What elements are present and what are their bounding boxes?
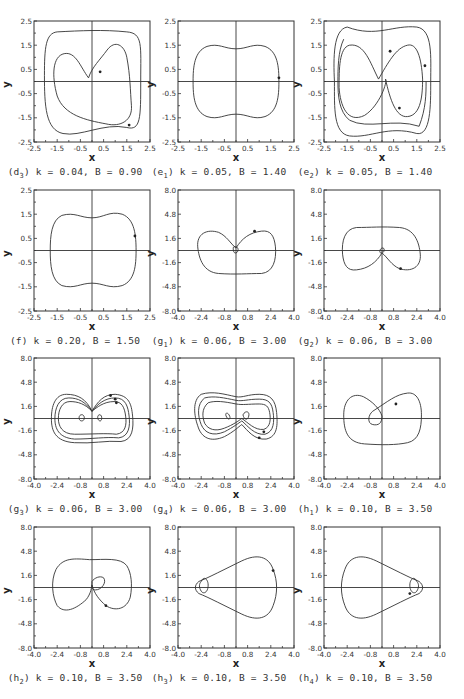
direction-marker <box>262 430 265 433</box>
y-tick-label: -1.6 <box>18 426 32 435</box>
x-axis-label: x <box>89 658 96 669</box>
x-axis-label: x <box>89 321 96 332</box>
y-tick-label: 4.8 <box>165 547 177 556</box>
y-tick-label: 2.5 <box>21 186 32 195</box>
panel-caption: (h3) k = 0.10, B = 3.50 <box>144 672 294 686</box>
direction-marker <box>128 124 131 127</box>
y-tick-label: 1.5 <box>311 41 322 50</box>
x-tick-label: 0.8 <box>98 481 110 490</box>
plot-panel-e1: -2.5-1.5-0.50.51.52.52.51.50.5-0.5-1.5-2… <box>144 0 294 168</box>
y-tick-label: 1.5 <box>21 210 32 219</box>
y-tick-label: -8.0 <box>162 307 176 316</box>
y-tick-label: -1.6 <box>162 426 176 435</box>
y-tick-label: 1.6 <box>165 402 177 411</box>
y-tick-label: -8.0 <box>162 644 176 653</box>
y-tick-label: -8.0 <box>18 475 32 484</box>
direction-marker <box>134 235 137 238</box>
y-tick-label: 1.6 <box>311 571 323 580</box>
y-tick-label: 2.5 <box>21 17 32 26</box>
direction-marker <box>399 267 402 270</box>
x-axis-label: x <box>379 321 386 332</box>
direction-marker <box>253 230 256 233</box>
x-tick-label: 0.8 <box>242 650 254 659</box>
x-tick-label: -0.8 <box>363 313 377 322</box>
y-tick-label: -8.0 <box>162 475 176 484</box>
trajectory-curve <box>98 415 102 421</box>
y-tick-label: -8.0 <box>308 307 322 316</box>
x-axis-label: x <box>89 152 96 163</box>
y-tick-label: 0.5 <box>21 65 32 74</box>
x-tick-label: -2.4 <box>194 313 208 322</box>
phase-plot-g3: -4.0-2.4-0.80.82.44.08.04.81.6-1.6-4.8-8… <box>0 337 150 505</box>
y-tick-label: -4.8 <box>18 619 32 628</box>
y-tick-label: -8.0 <box>308 644 322 653</box>
direction-marker <box>424 64 427 67</box>
y-axis-label: y <box>291 250 302 257</box>
x-tick-label: 2.4 <box>121 481 133 490</box>
y-tick-label: 4.8 <box>311 378 323 387</box>
x-tick-label: 0.8 <box>388 481 400 490</box>
x-tick-label: 2.4 <box>411 650 423 659</box>
y-tick-label: 1.6 <box>311 234 323 243</box>
y-tick-label: -1.5 <box>162 113 176 122</box>
x-tick-label: 4.0 <box>434 313 446 322</box>
trajectory-curve <box>54 44 132 124</box>
y-tick-label: 1.6 <box>311 402 323 411</box>
y-tick-label: -4.8 <box>18 450 32 459</box>
y-tick-label: 1.6 <box>21 402 33 411</box>
y-tick-label: -2.5 <box>18 307 32 316</box>
x-axis-label: x <box>233 152 240 163</box>
y-tick-label: -1.6 <box>308 595 322 604</box>
x-tick-label: -0.5 <box>217 144 231 153</box>
x-axis-label: x <box>233 658 240 669</box>
y-tick-label: 8.0 <box>311 354 323 363</box>
direction-marker <box>389 50 392 53</box>
x-tick-label: 0.5 <box>388 144 399 153</box>
y-tick-label: -2.5 <box>308 138 322 147</box>
panel-parameters: k = 0.10, B = 3.50 <box>36 672 143 683</box>
phase-plot-d3: -2.5-1.5-0.50.51.52.52.51.50.5-0.5-1.5-2… <box>0 0 150 168</box>
x-tick-label: -0.8 <box>217 650 231 659</box>
y-tick-label: 1.5 <box>21 41 32 50</box>
direction-marker <box>99 70 102 73</box>
x-tick-label: -0.5 <box>73 313 87 322</box>
plot-panel-g2: -4.0-2.4-0.80.82.44.08.04.81.6-1.6-4.8-8… <box>290 169 440 337</box>
phase-plot-h2: -4.0-2.4-0.80.82.44.08.04.81.6-1.6-4.8-8… <box>0 506 150 674</box>
x-tick-label: -1.5 <box>194 144 208 153</box>
y-tick-label: -4.8 <box>308 282 322 291</box>
y-axis-label: y <box>145 81 156 88</box>
x-tick-label: 0.5 <box>98 313 109 322</box>
y-tick-label: -4.8 <box>162 450 176 459</box>
x-tick-label: -2.4 <box>340 313 354 322</box>
x-tick-label: 4.0 <box>434 650 446 659</box>
x-tick-label: -2.4 <box>340 650 354 659</box>
y-axis-label: y <box>145 587 156 594</box>
phase-plot-e1: -2.5-1.5-0.50.51.52.52.51.50.5-0.5-1.5-2… <box>144 0 294 168</box>
x-tick-label: 0.5 <box>98 144 109 153</box>
y-tick-label: -4.8 <box>162 282 176 291</box>
direction-marker <box>105 604 108 607</box>
x-axis-label: x <box>89 489 96 500</box>
direction-marker <box>272 569 275 572</box>
x-tick-label: 1.5 <box>265 144 276 153</box>
panel-parameters: k = 0.10, B = 3.50 <box>180 672 287 683</box>
x-tick-label: -0.8 <box>217 313 231 322</box>
y-tick-label: 4.8 <box>21 547 33 556</box>
x-tick-label: -0.8 <box>363 481 377 490</box>
direction-marker <box>258 436 261 439</box>
y-tick-label: 1.6 <box>165 234 177 243</box>
x-axis-label: x <box>233 321 240 332</box>
direction-marker <box>278 76 281 79</box>
y-tick-label: 4.8 <box>311 210 323 219</box>
panel-caption: (h4) k = 0.10, B = 3.50 <box>290 672 440 686</box>
x-tick-label: -1.5 <box>50 144 64 153</box>
x-axis-label: x <box>233 489 240 500</box>
y-tick-label: 1.5 <box>165 41 176 50</box>
y-tick-label: -1.6 <box>308 426 322 435</box>
x-tick-label: 4.0 <box>434 481 446 490</box>
x-tick-label: -0.5 <box>73 144 87 153</box>
x-tick-label: 2.4 <box>121 650 133 659</box>
direction-marker <box>109 394 112 397</box>
x-tick-label: 0.5 <box>242 144 253 153</box>
phase-plot-e2: -2.5-1.5-0.50.51.52.52.51.50.5-0.5-1.5-2… <box>290 0 440 168</box>
